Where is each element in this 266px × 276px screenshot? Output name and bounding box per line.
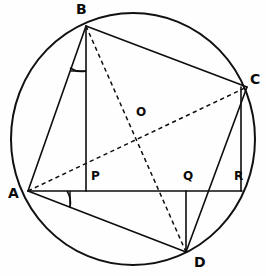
vertex-label-D: D [194,255,206,269]
segment-AB [28,26,86,191]
center-label-O: O [136,106,146,118]
foot-label-Q: Q [183,170,193,182]
segment-BC [86,26,247,87]
vertex-label-B: B [76,2,87,16]
circumcircle [11,13,255,265]
foot-label-P: P [91,170,100,182]
geometry-canvas [0,0,266,276]
vertex-label-A: A [8,186,19,200]
segment-BD-diagonal [86,26,186,252]
geometry-diagram: B C A D O P Q R [0,0,266,276]
foot-label-R: R [234,170,243,182]
vertex-label-C: C [250,72,261,86]
